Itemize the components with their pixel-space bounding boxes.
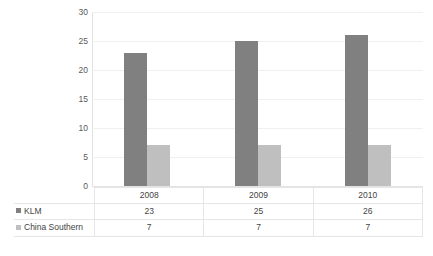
data-table-header-row: 200820092010 <box>14 188 423 204</box>
bar-klm-2008[interactable] <box>124 53 147 186</box>
column-header-2010: 2010 <box>313 188 422 204</box>
legend-swatch-icon <box>16 208 21 213</box>
bar-china-southern-2008[interactable] <box>147 145 170 186</box>
legend-item-china-southern[interactable]: China Southern <box>14 220 95 236</box>
table-row: KLM232526 <box>14 204 423 220</box>
y-tick-label-5: 5 <box>56 153 88 162</box>
y-tick-label-15: 15 <box>56 95 88 104</box>
y-tick-label-20: 20 <box>56 66 88 75</box>
data-table-body: 200820092010KLM232526China Southern777 <box>14 188 423 237</box>
legend-swatch-icon <box>16 225 21 230</box>
column-header-2008: 2008 <box>95 188 204 204</box>
y-axis-tick-labels: 051015202530 <box>56 12 88 186</box>
data-cell-china-southern-2008: 7 <box>95 220 204 236</box>
data-cell-klm-2008: 23 <box>95 204 204 220</box>
plot-wrapper: 051015202530 <box>0 0 433 196</box>
y-tick-label-25: 25 <box>56 37 88 46</box>
plot-area <box>92 12 423 186</box>
bar-china-southern-2010[interactable] <box>368 145 391 186</box>
data-cell-klm-2010: 26 <box>313 204 422 220</box>
data-cell-china-southern-2010: 7 <box>313 220 422 236</box>
legend-label: China Southern <box>24 223 83 233</box>
legend-label: KLM <box>24 206 41 216</box>
column-header-2009: 2009 <box>204 188 313 204</box>
data-cell-china-southern-2009: 7 <box>204 220 313 236</box>
y-tick-label-30: 30 <box>56 8 88 17</box>
legend-item-klm[interactable]: KLM <box>14 204 95 220</box>
data-cell-klm-2009: 25 <box>204 204 313 220</box>
data-table-corner-cell <box>14 188 95 204</box>
chart-data-table: 200820092010KLM232526China Southern777 <box>14 187 423 237</box>
table-row: China Southern777 <box>14 220 423 236</box>
gridline-30 <box>92 12 423 13</box>
bar-klm-2009[interactable] <box>235 41 258 186</box>
bar-china-southern-2009[interactable] <box>258 145 281 186</box>
bar-chart-with-data-table: 051015202530 200820092010KLM232526China … <box>0 0 433 256</box>
bar-klm-2010[interactable] <box>345 35 368 186</box>
gridline-25 <box>92 41 423 42</box>
y-tick-label-10: 10 <box>56 124 88 133</box>
